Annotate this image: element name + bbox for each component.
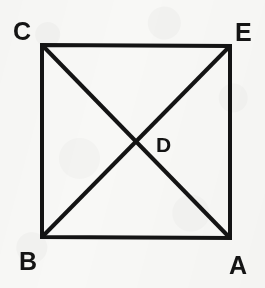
vertex-label-a: A bbox=[229, 253, 247, 278]
geometry-figure: C E B A D bbox=[0, 0, 265, 288]
vertex-label-b: B bbox=[19, 249, 37, 274]
vertex-label-c: C bbox=[13, 19, 31, 44]
vertex-label-e: E bbox=[235, 20, 252, 45]
intersection-label-d: D bbox=[156, 134, 171, 155]
square-with-diagonals-drawing bbox=[0, 0, 265, 288]
